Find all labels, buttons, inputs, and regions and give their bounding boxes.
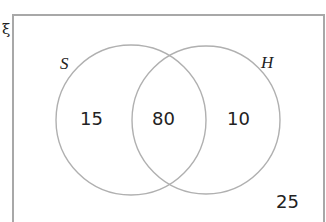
h-only-value: 10 — [227, 108, 250, 129]
universal-set-symbol: ξ — [2, 20, 10, 38]
s-only-value: 15 — [80, 108, 103, 129]
set-s-circle — [56, 45, 206, 195]
set-h-label: H — [260, 53, 275, 72]
venn-diagram: ξ S H 15 80 10 25 — [0, 0, 326, 222]
intersection-value: 80 — [152, 108, 175, 129]
set-s-label: S — [60, 54, 69, 73]
outside-value: 25 — [276, 191, 299, 212]
